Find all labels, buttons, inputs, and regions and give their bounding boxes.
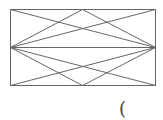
diag-topcenter-to-midleft-line [11,10,83,48]
diagram-lines [11,10,156,86]
diag-topcenter-to-midright-line [83,10,156,48]
diag-botcenter-to-midright-line [83,48,156,86]
caption-paren: ( [119,99,126,119]
diamond-lattice-diagram [0,0,163,120]
diag-botcenter-to-midleft-line [11,48,83,86]
